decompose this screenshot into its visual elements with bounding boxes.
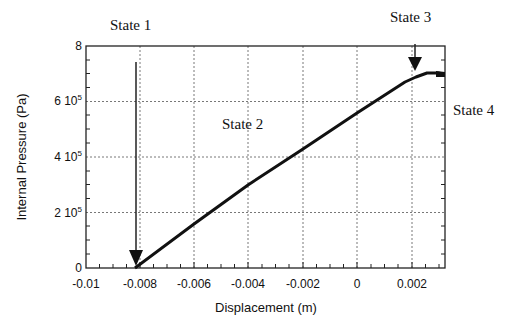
y-axis-title: Internal Pressure (Pa) xyxy=(14,93,29,220)
y-tick-4: 8 xyxy=(75,39,82,53)
x-axis-title: Displacement (m) xyxy=(215,300,317,315)
state-2-label: State 2 xyxy=(222,116,263,133)
y-tick-0: 0 xyxy=(75,261,82,275)
y-tick-3: 6 105 xyxy=(54,93,82,108)
x-tick-2: -0.006 xyxy=(177,277,211,291)
y-tick-2: 4 105 xyxy=(54,149,82,164)
gridlines xyxy=(86,46,445,268)
curve-end-marker xyxy=(436,71,445,77)
x-tick-5: 0 xyxy=(354,277,361,291)
pressure-curve xyxy=(135,73,443,268)
x-tick-6: 0.002 xyxy=(397,277,427,291)
x-tick-0: -0.01 xyxy=(72,277,99,291)
state-4-label: State 4 xyxy=(453,102,494,119)
x-tick-3: -0.004 xyxy=(231,277,265,291)
state-3-label: State 3 xyxy=(390,9,431,26)
state3-arrowhead-icon xyxy=(408,57,422,71)
x-tick-4: -0.002 xyxy=(286,277,320,291)
state-1-label: State 1 xyxy=(110,17,151,34)
x-tick-1: -0.008 xyxy=(123,277,157,291)
y-tick-1: 2 105 xyxy=(54,205,82,220)
